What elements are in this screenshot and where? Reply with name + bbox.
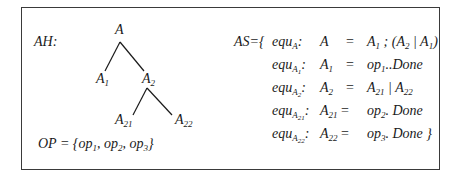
tree-node-A2: A2 [142,71,155,87]
equals-sign: = [346,34,354,50]
tree-node-A21: A21 [115,112,133,128]
equation-name: equA1: [272,57,306,73]
equation-name: equA2: [272,80,306,96]
tree-node-A1: A1 [96,71,109,87]
equation-rhs: op3. Done } [367,126,432,142]
equation-name: equA21: [272,103,309,119]
op-set: OP = {op1, op2, op3} [38,136,154,152]
equals-sign: = [346,57,354,73]
equation-rhs: op2. Done [367,103,423,119]
edge-A2-A22 [147,88,172,115]
equation-lhs: A22 [320,126,338,142]
equation-lhs: A2 [320,80,333,96]
equals-sign: = [341,103,349,119]
edge-A-A1 [105,42,120,71]
equation-rhs: A1 ; (A2 | A1) [367,34,438,50]
equation-lhs: A [320,34,329,50]
equation-name: equA: [272,34,302,50]
equals-sign: = [346,80,354,96]
equation-name: equA22: [272,126,309,142]
equals-sign: = [341,126,349,142]
equation-rhs: A21 | A22 [367,80,413,96]
as-label: AS={ [234,34,265,50]
tree-node-A: A [115,22,124,38]
edge-A2-A21 [133,88,147,115]
tree-node-A22: A22 [175,112,193,128]
equation-lhs: A1 [320,57,333,73]
equation-lhs: A21 [320,103,338,119]
edge-A-A2 [120,42,144,71]
equation-rhs: op1..Done [367,57,423,73]
